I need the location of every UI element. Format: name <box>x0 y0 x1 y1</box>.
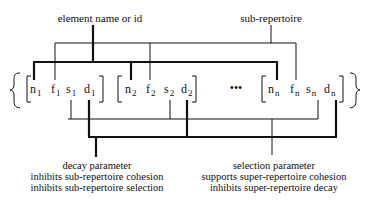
group-n: nn fn sn dn <box>268 82 336 98</box>
connector-decay <box>88 100 337 157</box>
caption-selection-line1: supports super-repertoire cohesion <box>202 171 348 182</box>
caption-decay: decay parameter inhibits sub-repertoire … <box>31 160 165 193</box>
group-2-open-bracket <box>118 76 122 102</box>
open-brace-glyph <box>10 73 20 108</box>
group-1-close-bracket <box>99 76 103 102</box>
symbol-s2: s2 <box>164 82 174 98</box>
symbol-n1: n1 <box>30 82 42 98</box>
group-n-close-bracket <box>339 76 343 102</box>
symbol-s1: s1 <box>66 82 76 98</box>
connector-element-name <box>33 25 278 80</box>
label-sub-repertoire: sub-repertoire <box>240 12 302 24</box>
group-2: n2 f2 s2 d2 <box>125 82 193 98</box>
group-n-open-bracket <box>262 76 266 102</box>
caption-selection: selection parameter supports super-reper… <box>202 160 348 193</box>
group-1: n1 f1 s1 d1 <box>30 82 96 98</box>
connector-selection <box>68 100 318 155</box>
caption-decay-line1: inhibits sub-repertoire cohesion <box>31 171 165 182</box>
caption-selection-title: selection parameter <box>233 160 315 171</box>
symbol-f2: f2 <box>146 82 156 98</box>
caption-selection-line2: inhibits super-repertoire decay <box>210 182 339 193</box>
group-2-close-bracket <box>192 76 196 102</box>
symbol-d1: d1 <box>84 82 96 98</box>
symbol-dn: dn <box>324 82 336 98</box>
repertoire-structure-diagram: element name or id sub-repertoire n1 f1 … <box>0 0 373 208</box>
symbol-fn: fn <box>290 82 300 98</box>
label-element-name: element name or id <box>58 12 143 24</box>
connector-sub-repertoire <box>55 25 296 80</box>
symbol-nn: nn <box>268 82 280 98</box>
symbol-f1: f1 <box>51 82 61 98</box>
symbol-n2: n2 <box>125 82 137 98</box>
symbol-sn: sn <box>306 82 317 98</box>
symbol-d2: d2 <box>181 82 193 98</box>
caption-decay-line2: inhibits sub-repertoire selection <box>31 182 165 193</box>
ellipsis: ••• <box>230 81 243 95</box>
close-brace-glyph <box>350 73 360 108</box>
caption-decay-title: decay parameter <box>62 160 132 171</box>
